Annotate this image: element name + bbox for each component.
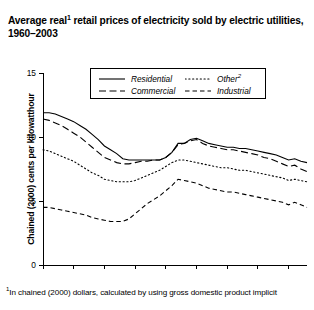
legend-item-other[interactable]: Other2 xyxy=(185,73,241,85)
x-tick-label: 1965 xyxy=(64,271,83,272)
legend-item-industrial[interactable]: Industrial xyxy=(185,85,251,97)
x-tick-label: 1980 xyxy=(156,271,175,272)
x-tick-label: 2000 xyxy=(279,271,298,272)
chart-title: Average real1 retail prices of electrici… xyxy=(8,14,308,40)
y-tick-label: 15 xyxy=(27,68,37,78)
legend-key-solid xyxy=(99,75,125,83)
legend-key-long-dash xyxy=(99,87,125,95)
legend-key-dotted xyxy=(185,75,211,83)
legend-key-dash xyxy=(185,87,211,95)
chart-footnote: 1In chained (2000) dollars, calculated b… xyxy=(6,288,312,298)
legend-item-residential[interactable]: Residential xyxy=(99,73,172,85)
series-line-other xyxy=(43,150,307,182)
x-tick-group: 196019651970197519801985199019952000 xyxy=(34,265,299,272)
footnote-text: In chained (2000) dollars, calculated by… xyxy=(9,288,277,297)
legend-label: Industrial xyxy=(217,86,251,96)
x-tick-label: 1975 xyxy=(126,271,145,272)
y-axis-title: Chained (2000) cents per kilowatthour xyxy=(26,86,36,252)
x-tick-label: 1990 xyxy=(218,271,237,272)
series-line-residential xyxy=(43,113,307,163)
chart-figure: Average real1 retail prices of electrici… xyxy=(0,0,314,310)
legend-label: Other2 xyxy=(217,74,241,84)
x-tick-label: 1960 xyxy=(34,271,53,272)
data-series-group xyxy=(43,113,307,222)
legend-label: Commercial xyxy=(131,86,175,96)
y-tick-label: 0 xyxy=(31,260,36,270)
x-tick-label: 1985 xyxy=(187,271,206,272)
legend-footnote-marker: 2 xyxy=(238,73,241,79)
series-line-industrial xyxy=(43,179,307,221)
legend-item-commercial[interactable]: Commercial xyxy=(99,85,175,97)
legend-label: Residential xyxy=(131,74,172,84)
x-tick-label: 1970 xyxy=(95,271,114,272)
x-tick-label: 1995 xyxy=(249,271,268,272)
chart-title-text-before: Average real xyxy=(8,15,67,26)
chart-legend: ResidentialCommercialOther2Industrial xyxy=(90,68,266,99)
